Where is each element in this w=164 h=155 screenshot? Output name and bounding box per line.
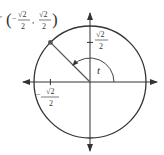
y-tick-numerator: √2 <box>96 30 104 39</box>
x-tick-sign: − <box>36 90 41 99</box>
close-paren: ) <box>52 10 58 29</box>
label-marker: ′ <box>0 14 2 24</box>
x-tick-denominator: 2 <box>49 99 53 108</box>
x-sign: − <box>12 14 17 23</box>
radius-line <box>50 42 90 82</box>
angle-arc <box>73 58 114 82</box>
angle-label: t <box>97 64 101 76</box>
x-numerator: √2 <box>18 10 26 19</box>
x-denominator: 2 <box>21 22 25 31</box>
y-tick-label: √2 2 <box>95 30 108 51</box>
x-tick-numerator: √2 <box>46 87 54 96</box>
y-tick-denominator: 2 <box>99 42 103 51</box>
unit-circle-diagram: t ′ ( − √2 2 , √2 2 ) √2 2 − √2 2 <box>0 0 164 155</box>
y-numerator: √2 <box>39 10 47 19</box>
point-coordinate-label: ′ ( − √2 2 , √2 2 ) <box>0 10 58 31</box>
comma: , <box>32 15 34 25</box>
terminal-point <box>48 40 53 45</box>
y-denominator: 2 <box>42 22 46 31</box>
